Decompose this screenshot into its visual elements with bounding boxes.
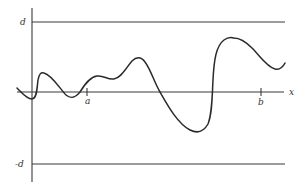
upper-bound-label: d	[20, 17, 26, 27]
lower-bound-label: -d	[15, 159, 24, 169]
function-curve	[17, 37, 285, 131]
x-axis-label: x	[289, 87, 294, 97]
tick-a-label: a	[85, 96, 90, 106]
tick-b-label: b	[258, 97, 264, 107]
function-diagram: d -d x a b	[0, 0, 303, 189]
